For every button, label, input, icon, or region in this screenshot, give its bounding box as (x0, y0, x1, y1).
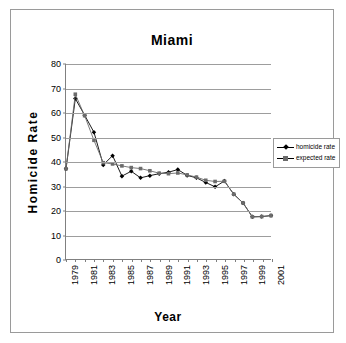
x-axis-tick (206, 259, 207, 262)
x-axis-tick (244, 259, 245, 262)
x-axis-tick (132, 259, 133, 262)
legend-swatch-square-icon (277, 154, 294, 163)
y-axis-tick (63, 162, 66, 163)
data-point-marker (185, 173, 189, 177)
data-point-marker (223, 179, 227, 183)
x-axis-tick-label: 1987 (145, 265, 155, 285)
x-axis-tick (253, 259, 254, 262)
x-axis-tick-label: 1999 (257, 265, 267, 285)
x-axis-tick (263, 259, 264, 262)
y-axis-label-text: Homicide Rate (26, 111, 40, 214)
data-point-marker (64, 167, 68, 171)
chart-legend: homicide rate expected rate (273, 138, 340, 168)
y-axis-tick (63, 113, 66, 114)
x-axis-tick-label: 2001 (276, 265, 286, 285)
gridline (66, 138, 271, 139)
chart-figure: Miami Homicide Rate 80706050403020100197… (10, 9, 334, 333)
gridline (66, 162, 271, 163)
data-point-marker (204, 178, 208, 182)
plot-area: 8070605040302010019791981198319851987198… (65, 64, 271, 260)
data-point-marker (92, 139, 96, 143)
y-axis-tick-label: 0 (56, 255, 61, 265)
data-point-marker (260, 215, 264, 219)
x-axis-tick-label: 1989 (164, 265, 174, 285)
y-axis-tick-label: 40 (51, 157, 61, 167)
y-axis-tick (63, 211, 66, 212)
x-axis-tick (178, 259, 179, 262)
y-axis-tick-label: 10 (51, 231, 61, 241)
x-axis-tick (85, 259, 86, 262)
data-point-marker (176, 167, 181, 172)
y-axis-tick (63, 88, 66, 89)
x-axis-tick-label: 1993 (201, 265, 211, 285)
x-axis-tick-label: 1979 (70, 265, 80, 285)
x-axis-tick (188, 259, 189, 262)
data-point-marker (269, 214, 273, 218)
legend-label: expected rate (296, 155, 335, 162)
data-point-marker (251, 215, 255, 219)
x-axis-tick-label: 1997 (239, 265, 249, 285)
data-point-marker (157, 171, 161, 175)
x-axis-tick-label: 1983 (107, 265, 117, 285)
gridline (66, 64, 271, 65)
x-axis-tick-label: 1981 (89, 265, 99, 285)
x-axis-tick (75, 259, 76, 262)
y-axis-tick (63, 186, 66, 187)
data-point-marker (232, 192, 236, 196)
y-axis-label: Homicide Rate (25, 64, 41, 260)
legend-swatch-diamond-icon (277, 143, 294, 152)
data-point-marker (176, 171, 180, 175)
y-axis-tick-label: 60 (51, 108, 61, 118)
x-axis-tick (272, 259, 273, 262)
x-axis-tick-label: 1985 (126, 265, 136, 285)
x-axis-tick (169, 259, 170, 262)
data-point-marker (139, 167, 143, 171)
data-point-marker (83, 114, 87, 118)
y-axis-tick (63, 137, 66, 138)
y-axis-tick-label: 20 (51, 206, 61, 216)
data-point-marker (195, 175, 199, 179)
x-axis-tick-label: 1991 (182, 265, 192, 285)
y-axis-tick-label: 80 (51, 59, 61, 69)
data-point-marker (120, 174, 125, 179)
x-axis-tick-label: 1995 (220, 265, 230, 285)
legend-item-homicide-rate: homicide rate (277, 142, 335, 153)
data-point-marker (148, 169, 152, 173)
data-point-marker (167, 172, 171, 176)
x-axis-tick (235, 259, 236, 262)
x-axis-tick (216, 259, 217, 262)
y-axis-tick-label: 30 (51, 182, 61, 192)
y-axis-tick (63, 64, 66, 65)
y-axis-tick-label: 70 (51, 84, 61, 94)
x-axis-tick (225, 259, 226, 262)
gridline (66, 211, 271, 212)
data-point-marker (120, 164, 124, 168)
x-axis-tick (197, 259, 198, 262)
chart-title: Miami (11, 32, 333, 48)
data-point-marker (92, 130, 97, 135)
x-axis-tick (66, 259, 67, 262)
data-point-marker (213, 180, 217, 184)
data-point-marker (148, 173, 153, 178)
gridline (66, 113, 271, 114)
series-line (66, 99, 271, 217)
data-point-marker (129, 166, 133, 170)
x-axis-tick (141, 259, 142, 262)
x-axis-tick (103, 259, 104, 262)
gridline (66, 236, 271, 237)
legend-label: homicide rate (296, 144, 335, 151)
gridline (66, 89, 271, 90)
x-axis-tick (122, 259, 123, 262)
data-point-marker (241, 201, 245, 205)
x-axis-tick (94, 259, 95, 262)
x-axis-label: Year (65, 310, 271, 324)
data-point-marker (74, 92, 78, 96)
x-axis-tick (160, 259, 161, 262)
x-axis-tick (113, 259, 114, 262)
legend-item-expected-rate: expected rate (277, 153, 335, 164)
y-axis-tick (63, 235, 66, 236)
y-axis-tick-label: 50 (51, 133, 61, 143)
gridline (66, 187, 271, 188)
x-axis-tick (150, 259, 151, 262)
